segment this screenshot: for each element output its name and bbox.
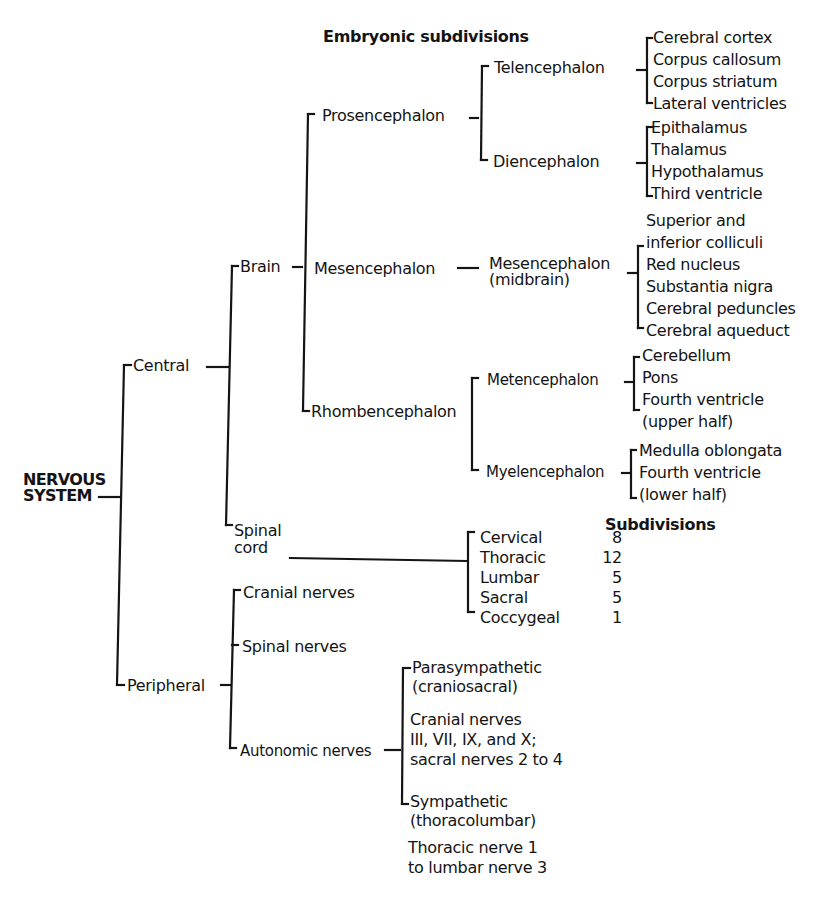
list-diencephalon-structures: Epithalamus Thalamus Hypothalamus Third … <box>651 117 763 205</box>
list-item: (upper half) <box>642 411 764 433</box>
spinal-subdivision-count: 5 <box>598 568 622 588</box>
node-mesencephalon: Mesencephalon <box>314 259 435 278</box>
spinal-subdivision-name: Lumbar <box>480 568 560 588</box>
list-spinal-subdivisions: Cervical Thoracic Lumbar Sacral Coccygea… <box>480 528 560 628</box>
node-peripheral: Peripheral <box>127 676 205 695</box>
node-sympathetic: Sympathetic (thoracolumbar) <box>410 792 536 830</box>
text-sympathetic-detail: Thoracic nerve 1 to lumbar nerve 3 <box>408 838 547 878</box>
list-item: Substantia nigra <box>646 276 796 298</box>
spinal-subdivision-count: 12 <box>598 548 622 568</box>
node-spinal-nerves: Spinal nerves <box>242 637 347 656</box>
list-item: Epithalamus <box>651 117 763 139</box>
node-parasympathetic: Parasympathetic (craniosacral) <box>412 658 542 696</box>
list-item: inferior colliculi <box>646 232 796 254</box>
detail-line: III, VII, IX, and X; <box>410 730 563 750</box>
thoracolumbar-label: (thoracolumbar) <box>410 811 536 830</box>
node-myelencephalon: Myelencephalon <box>486 464 604 481</box>
root-label-nervous-system: NERVOUS SYSTEM <box>23 472 106 504</box>
node-central: Central <box>133 356 189 375</box>
spinal-subdivision-name: Cervical <box>480 528 560 548</box>
list-item: Red nucleus <box>646 254 796 276</box>
craniosacral-label: (craniosacral) <box>412 677 542 696</box>
list-item: (lower half) <box>639 484 782 506</box>
spinal-subdivision-name: Thoracic <box>480 548 560 568</box>
node-autonomic-nerves: Autonomic nerves <box>240 743 371 760</box>
node-prosencephalon: Prosencephalon <box>322 106 445 125</box>
spinal-subdivision-count: 5 <box>598 588 622 608</box>
list-item: Hypothalamus <box>651 161 763 183</box>
node-brain: Brain <box>240 257 280 276</box>
node-telencephalon: Telencephalon <box>494 58 605 77</box>
detail-line: sacral nerves 2 to 4 <box>410 750 563 770</box>
list-item: Cerebral cortex <box>653 27 787 49</box>
list-item: Fourth ventricle <box>642 389 764 411</box>
midbrain-label: (midbrain) <box>489 272 610 288</box>
node-spinal-cord: Spinal cord <box>234 522 281 556</box>
list-telencephalon-structures: Cerebral cortex Corpus callosum Corpus s… <box>653 27 787 115</box>
list-metencephalon-structures: Cerebellum Pons Fourth ventricle (upper … <box>642 345 764 433</box>
list-item: Medulla oblongata <box>639 440 782 462</box>
list-item: Cerebellum <box>642 345 764 367</box>
list-item: Third ventricle <box>651 183 763 205</box>
node-diencephalon: Diencephalon <box>493 152 599 171</box>
list-item: Corpus striatum <box>653 71 787 93</box>
list-item: Cerebral aqueduct <box>646 320 796 342</box>
list-item: Corpus callosum <box>653 49 787 71</box>
node-cranial-nerves: Cranial nerves <box>243 583 355 602</box>
list-mesencephalon-structures: Superior and inferior colliculi Red nucl… <box>646 210 796 342</box>
spinal-subdivision-count: 1 <box>598 608 622 628</box>
list-item: Pons <box>642 367 764 389</box>
spinal-cord-line-2: cord <box>234 539 281 556</box>
node-mesencephalon-midbrain: Mesencephalon (midbrain) <box>489 256 610 288</box>
list-item: Lateral ventricles <box>653 93 787 115</box>
spinal-subdivision-name: Sacral <box>480 588 560 608</box>
list-spinal-subdivision-counts: 8 12 5 5 1 <box>598 528 622 628</box>
node-metencephalon: Metencephalon <box>487 372 598 389</box>
sympathetic-label: Sympathetic <box>410 792 536 811</box>
node-rhombencephalon: Rhombencephalon <box>311 402 456 421</box>
list-item: Thalamus <box>651 139 763 161</box>
detail-line: Cranial nerves <box>410 710 563 730</box>
root-line-2: SYSTEM <box>23 488 106 504</box>
parasympathetic-label: Parasympathetic <box>412 658 542 677</box>
text-parasympathetic-detail: Cranial nerves III, VII, IX, and X; sacr… <box>410 710 563 770</box>
detail-line: to lumbar nerve 3 <box>408 858 547 878</box>
list-myelencephalon-structures: Medulla oblongata Fourth ventricle (lowe… <box>639 440 782 506</box>
spinal-subdivision-count: 8 <box>598 528 622 548</box>
list-item: Cerebral peduncles <box>646 298 796 320</box>
list-item: Superior and <box>646 210 796 232</box>
header-embryonic-subdivisions: Embryonic subdivisions <box>323 27 529 46</box>
spinal-cord-line-1: Spinal <box>234 522 281 539</box>
spinal-subdivision-name: Coccygeal <box>480 608 560 628</box>
list-item: Fourth ventricle <box>639 462 782 484</box>
detail-line: Thoracic nerve 1 <box>408 838 547 858</box>
